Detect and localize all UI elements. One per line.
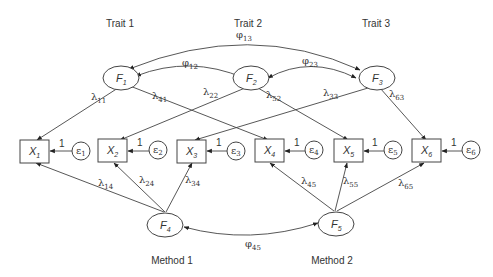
factor-f1: F1 — [103, 66, 139, 90]
error-e3: ε3 — [227, 142, 245, 160]
method-1-label: Method 1 — [151, 255, 193, 266]
loading-f2-x2 — [120, 88, 245, 140]
error-e5: ε5 — [384, 141, 402, 159]
loading-f4-x2 — [114, 163, 165, 212]
covariance-f4-f5 — [184, 223, 318, 235]
lambda-65-label: λ65 — [398, 177, 413, 191]
weight-2: 1 — [137, 137, 143, 148]
phi-12-label: φ12 — [182, 57, 198, 71]
lambda-55-label: λ55 — [343, 175, 358, 189]
phi-13-label: φ13 — [236, 29, 252, 43]
lambda-24-label: λ24 — [139, 174, 155, 188]
observed-x5: X5 — [334, 139, 363, 162]
observed-x6: X6 — [412, 139, 441, 162]
factor-f5: F5 — [318, 212, 354, 236]
error-e1: ε1 — [72, 142, 90, 160]
lambda-52-label: λ52 — [266, 89, 281, 103]
lambda-63-label: λ63 — [389, 88, 404, 102]
trait-1-label: Trait 1 — [106, 18, 134, 29]
lambda-22-label: λ22 — [203, 86, 218, 100]
trait-2-label: Trait 2 — [234, 18, 262, 29]
lambda-14-label: λ14 — [98, 177, 114, 191]
loading-f5-x5 — [335, 163, 347, 211]
phi-45-label: φ45 — [245, 238, 261, 252]
weight-1: 1 — [59, 138, 65, 149]
factor-f3: F3 — [359, 66, 395, 90]
lambda-34-label: λ34 — [185, 174, 201, 188]
weight-6: 1 — [451, 137, 457, 148]
lambda-33-label: λ33 — [323, 87, 338, 101]
lambda-41-label: λ41 — [152, 90, 167, 104]
observed-x3: X3 — [177, 140, 206, 163]
observed-x1: X1 — [20, 140, 49, 163]
trait-3-label: Trait 3 — [362, 18, 390, 29]
error-e6: ε6 — [462, 141, 480, 159]
factor-f4: F4 — [147, 213, 183, 237]
factor-f2: F2 — [233, 66, 269, 90]
path-diagram: Trait 1 Trait 2 Trait 3 Method 1 Method … — [0, 0, 493, 277]
observed-x4: X4 — [255, 139, 284, 162]
error-e4: ε4 — [305, 141, 323, 159]
loading-f1-x4 — [130, 86, 268, 140]
weight-4: 1 — [294, 137, 300, 148]
loading-f3-x3 — [195, 88, 368, 140]
observed-x2: X2 — [98, 139, 127, 162]
loading-f1-x1 — [37, 88, 118, 140]
lambda-45-label: λ45 — [301, 175, 316, 189]
loading-f5-x4 — [270, 163, 334, 211]
error-e2: ε2 — [149, 141, 167, 159]
weight-5: 1 — [372, 137, 378, 148]
weight-3: 1 — [216, 137, 222, 148]
covariance-f1-f3 — [129, 45, 360, 70]
lambda-11-label: λ11 — [91, 91, 106, 105]
loading-f4-x3 — [166, 163, 192, 212]
method-2-label: Method 2 — [311, 255, 353, 266]
